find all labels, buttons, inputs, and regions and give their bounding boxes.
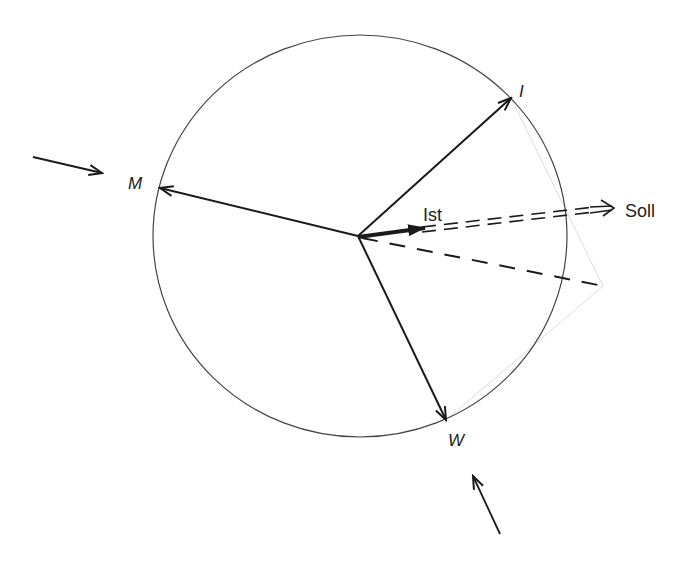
vector-M	[160, 188, 358, 236]
left-external-arrow	[33, 157, 102, 173]
bottom-external-arrow	[473, 476, 500, 534]
label-Ist: Ist	[423, 205, 442, 225]
soll-vector	[422, 200, 614, 232]
vector-Ist	[358, 228, 425, 237]
label-I: I	[519, 82, 524, 101]
vector-diagram: M I W Ist Soll	[0, 0, 693, 570]
label-M: M	[128, 174, 143, 193]
soll-double-arrow-icon	[590, 200, 614, 216]
label-Soll: Soll	[625, 201, 655, 221]
label-W: W	[448, 431, 466, 450]
construction-lines	[446, 98, 603, 420]
vector-W	[358, 236, 446, 420]
